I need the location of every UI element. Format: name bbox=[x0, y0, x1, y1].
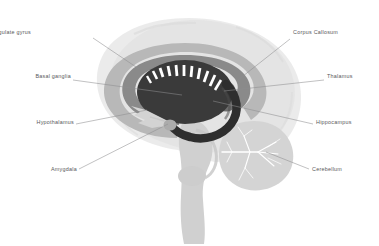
label-cingulate-gyrus: Cingulate gyrus bbox=[0, 30, 31, 35]
leader-line-amygdala bbox=[79, 124, 168, 169]
label-corpus-callosum: Corpus Callosum bbox=[293, 30, 338, 35]
brain-anatomy-figure: Cingulate gyrus Corpus Callosum Basal ga… bbox=[0, 0, 379, 246]
label-basal-ganglia: Basal ganglia bbox=[35, 74, 71, 79]
label-hippocampus: Hippocampus bbox=[316, 120, 352, 125]
label-amygdala: Amygdala bbox=[51, 167, 77, 172]
label-thalamus: Thalamus bbox=[327, 74, 353, 79]
label-hypothalamus: Hypothalamus bbox=[37, 120, 74, 125]
cerebellum bbox=[219, 121, 293, 190]
label-cerebellum: Cerebellum bbox=[312, 167, 342, 172]
